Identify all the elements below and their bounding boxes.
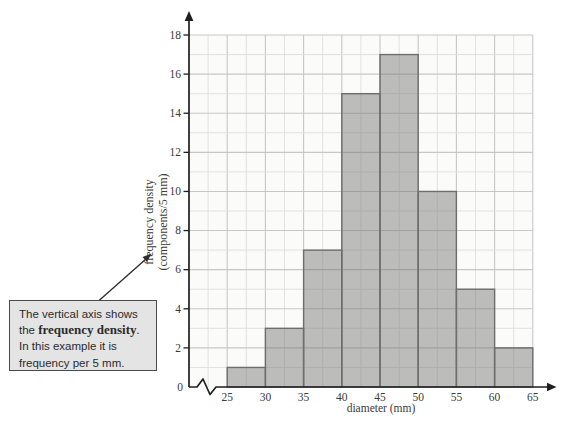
y-tick-label-6: 6 <box>175 263 181 275</box>
histogram-bar-35-40 <box>304 250 342 387</box>
histogram-bar-25-30 <box>227 367 265 387</box>
y-tick-label-2: 2 <box>175 342 181 354</box>
callout-line-2-post: . <box>137 324 140 336</box>
y-axis-title-line1: frequency density <box>142 179 156 265</box>
histogram-bar-30-35 <box>265 328 303 387</box>
x-tick-label-60: 60 <box>489 391 501 403</box>
callout-line-1: The vertical axis shows <box>19 306 147 322</box>
y-axis-arrowhead <box>185 11 194 21</box>
callout-line-3: In this example it is <box>19 338 147 354</box>
x-axis-arrowhead <box>547 383 557 392</box>
histogram-bar-45-50 <box>380 55 418 387</box>
x-tick-label-55: 55 <box>451 391 463 403</box>
x-tick-label-25: 25 <box>221 391 233 403</box>
x-tick-label-30: 30 <box>260 391 272 403</box>
callout-box: The vertical axis shows the frequency de… <box>9 300 157 371</box>
callout-line-2-pre: the <box>19 324 38 336</box>
y-tick-label-16: 16 <box>170 68 182 80</box>
y-axis-title-line2: (components/5 mm) <box>156 174 170 271</box>
x-axis-title: diameter (mm) <box>347 402 416 415</box>
x-tick-label-35: 35 <box>298 391 310 403</box>
y-tick-label-8: 8 <box>175 224 181 236</box>
histogram-bar-55-60 <box>456 289 494 387</box>
histogram-bar-40-45 <box>342 94 380 387</box>
x-tick-label-65: 65 <box>527 391 539 403</box>
callout-arrow <box>99 254 152 302</box>
y-tick-label-4: 4 <box>175 303 181 315</box>
origin-label: 0 <box>177 381 183 393</box>
histogram-bar-50-55 <box>418 191 456 387</box>
callout-line-2: the frequency density. <box>19 322 147 338</box>
y-tick-label-12: 12 <box>170 146 182 158</box>
y-tick-label-14: 14 <box>170 107 182 119</box>
callout-bold-term: frequency density <box>38 322 136 337</box>
figure: 246810121416180253035404550556065diamete… <box>0 0 565 423</box>
y-tick-label-10: 10 <box>170 185 182 197</box>
histogram-bar-60-65 <box>495 348 533 387</box>
y-tick-label-18: 18 <box>170 29 182 41</box>
callout-line-4: frequency per 5 mm. <box>19 355 147 371</box>
